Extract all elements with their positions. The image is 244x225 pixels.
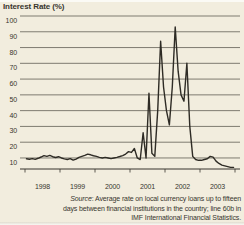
interest-rate-line-chart: 1009080706050403020101998199920002001200… xyxy=(0,0,244,225)
source-label: Source xyxy=(70,195,91,202)
y-tick-label: 70 xyxy=(9,64,17,71)
y-tick-label: 30 xyxy=(9,127,17,134)
series-line xyxy=(26,27,233,167)
x-tick-label: 2002 xyxy=(175,183,190,190)
source-note: Source: Average rate on local currency l… xyxy=(11,194,241,223)
x-tick-label: 2000 xyxy=(105,183,120,190)
y-gridlines xyxy=(20,16,240,158)
source-line-1-text: : Average rate on local currency loans u… xyxy=(92,195,241,202)
x-tick-label: 1999 xyxy=(70,183,85,190)
y-tick-label: 80 xyxy=(9,49,17,56)
page-bottom-edge xyxy=(0,222,244,225)
source-line-1: Source: Average rate on local currency l… xyxy=(11,194,241,204)
y-tick-label: 60 xyxy=(9,80,17,87)
source-line-2: days between financial institutions in t… xyxy=(11,204,241,214)
y-tick-label: 10 xyxy=(9,159,17,166)
y-tick-label: 100 xyxy=(6,17,18,24)
y-axis-labels: 100908070605040302010 xyxy=(6,17,18,166)
x-axis xyxy=(20,169,240,173)
x-axis-labels: 199819992000200120022003 xyxy=(35,183,225,190)
y-tick-label: 40 xyxy=(9,112,17,119)
x-tick-label: 2001 xyxy=(140,183,155,190)
y-tick-label: 50 xyxy=(9,96,17,103)
x-tick-label: 1998 xyxy=(35,183,50,190)
y-tick-label: 90 xyxy=(9,33,17,40)
x-tick-label: 2003 xyxy=(210,183,225,190)
y-tick-label: 20 xyxy=(9,143,17,150)
